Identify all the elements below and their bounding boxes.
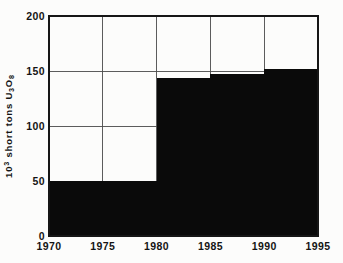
y-tick-label: 50 — [33, 175, 45, 187]
y-axis-title: 103 short tons U3O8 — [2, 74, 17, 178]
y-tick-label: 100 — [26, 120, 45, 132]
y-tick-label: 200 — [26, 10, 45, 22]
x-tick-label: 1985 — [198, 240, 223, 252]
y-axis-tick-labels: 050100150200 — [26, 10, 45, 242]
step-area-chart: 050100150200197019751980198519901995103 … — [0, 0, 343, 263]
x-tick-label: 1980 — [144, 240, 169, 252]
x-tick-label: 1970 — [37, 240, 62, 252]
x-tick-label: 1975 — [90, 240, 115, 252]
x-tick-label: 1990 — [252, 240, 277, 252]
figure: 050100150200197019751980198519901995103 … — [0, 0, 343, 263]
x-axis-tick-labels: 197019751980198519901995 — [37, 240, 331, 252]
y-tick-label: 150 — [26, 65, 45, 77]
x-tick-label: 1995 — [306, 240, 331, 252]
step-area-fill — [49, 69, 318, 236]
